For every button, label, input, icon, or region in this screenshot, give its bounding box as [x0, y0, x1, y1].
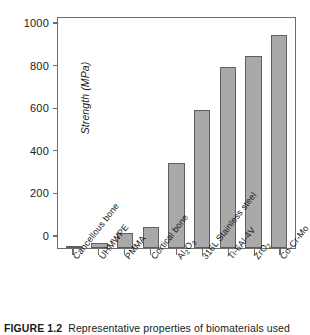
x-label-slot: UHMWPE	[86, 255, 112, 317]
figure-container: Strength (MPa) 02004006008001000 Cancell…	[0, 0, 310, 335]
x-axis-labels: Cancellous boneUHMWPEPMMACortical boneAl…	[57, 255, 296, 317]
y-axis-tick-label: 200	[30, 187, 53, 199]
bar-slot	[138, 18, 164, 248]
x-label-slot: PMMA	[112, 255, 138, 317]
y-axis-tick-label: 1000	[24, 17, 53, 29]
caption-text: Representative properties of biomaterial…	[68, 322, 290, 334]
y-axis-tick: 400	[30, 145, 58, 157]
bar-slot	[189, 18, 215, 248]
bar-zro2[interactable]	[245, 56, 261, 248]
y-axis-tick-label: 400	[30, 145, 53, 157]
x-label-slot: Al2O3	[164, 255, 190, 317]
y-axis-tick: 600	[30, 102, 58, 114]
y-axis-tick-label: 600	[30, 102, 53, 114]
bar-slot	[112, 18, 138, 248]
y-axis-tick: 1000	[24, 17, 58, 29]
bar-316l-stainless-steel[interactable]	[194, 110, 210, 248]
bar-slot	[61, 18, 87, 248]
x-label-slot: 316L Stainless steel	[189, 255, 215, 317]
bar-slot	[164, 18, 190, 248]
y-axis-tick-label: 0	[43, 230, 53, 242]
figure-caption: FIGURE 1.2 Representative properties of …	[4, 322, 308, 334]
x-label-slot: Cancellous bone	[60, 255, 86, 317]
x-label-slot: ZrO2	[241, 255, 267, 317]
bar-co-cr-mo[interactable]	[271, 35, 287, 248]
chart-plot-area: Strength (MPa) 02004006008001000	[57, 17, 296, 249]
caption-number: FIGURE 1.2	[4, 322, 62, 334]
y-axis-tick: 800	[30, 60, 58, 72]
bar-series	[58, 18, 295, 248]
y-axis-tick-label: 800	[30, 60, 53, 72]
y-axis-tick: 0	[43, 230, 58, 242]
x-label-slot: Ti-6Al-4V	[215, 255, 241, 317]
bar-slot	[266, 18, 292, 248]
x-label-slot: Cortical bone	[138, 255, 164, 317]
y-axis-tick: 200	[30, 187, 58, 199]
x-label-slot: Co-Cr-Mo	[267, 255, 293, 317]
